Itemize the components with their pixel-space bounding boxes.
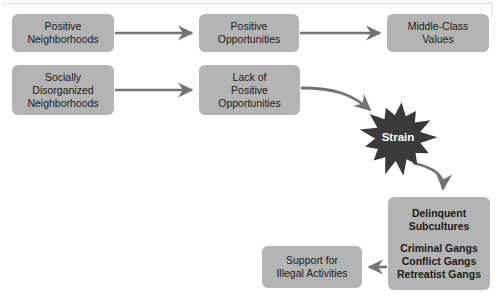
node-lack-of-positive-opportunities[interactable]: Lack of Positive Opportunities [199, 65, 300, 115]
node-line: Socially [45, 71, 81, 84]
node-line: Disorganized [32, 84, 93, 97]
node-positive-neighborhoods[interactable]: Positive Neighborhoods [12, 14, 114, 52]
node-line: Positive [231, 20, 268, 33]
top-right-tick [492, 3, 493, 14]
diagram-canvas: Positive Neighborhoods Positive Opportun… [0, 0, 502, 302]
gang-item: Conflict Gangs [397, 255, 481, 268]
gang-item: Criminal Gangs [397, 242, 481, 255]
node-heading-line: Subcultures [409, 220, 470, 233]
node-line: Lack of [233, 71, 267, 84]
node-line: Middle-Class [408, 20, 469, 33]
node-line: Neighborhoods [27, 97, 98, 110]
top-dotted-rule [4, 3, 493, 5]
edge-strain-to-ds [413, 163, 443, 189]
node-socially-disorganized-neighborhoods[interactable]: Socially Disorganized Neighborhoods [12, 65, 114, 115]
node-line: Positive [231, 84, 268, 97]
node-line: Support for [286, 254, 338, 267]
delinquent-gang-list: Criminal Gangs Conflict Gangs Retreatist… [397, 242, 481, 281]
edge-lpo-to-strain [301, 88, 370, 110]
node-positive-opportunities[interactable]: Positive Opportunities [199, 14, 299, 52]
node-delinquent-subcultures[interactable]: Delinquent Subcultures Criminal Gangs Co… [388, 197, 490, 290]
node-heading-line: Delinquent [412, 207, 466, 220]
node-line: Illegal Activities [276, 267, 347, 280]
gang-item: Retreatist Gangs [397, 268, 481, 281]
node-middle-class-values[interactable]: Middle-Class Values [387, 14, 489, 52]
node-support-for-illegal-activities[interactable]: Support for Illegal Activities [262, 246, 362, 288]
strain-starburst [360, 102, 438, 176]
node-line: Positive [45, 20, 82, 33]
node-line: Neighborhoods [27, 33, 98, 46]
node-line: Opportunities [218, 97, 280, 110]
node-line: Opportunities [218, 33, 280, 46]
node-line: Values [422, 33, 453, 46]
